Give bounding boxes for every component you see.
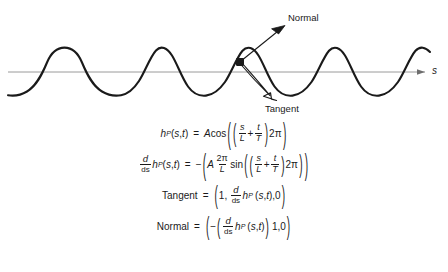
eq3-rhs: (1, d ds hP(s,t),0) <box>213 186 286 206</box>
tangent-label: Tangent <box>265 104 299 114</box>
eq2-outer-rparen: ) <box>305 149 308 181</box>
eq1-outer-lparen: ( <box>227 118 230 150</box>
eq3-lparen: ( <box>214 181 217 209</box>
operator-d-by-ds: d ds <box>140 154 150 174</box>
eq4-lhs: Normal <box>157 221 189 232</box>
normal-vector-arrow <box>241 26 285 62</box>
fraction-twopi-over-L: 2π L <box>215 154 228 174</box>
eq2-rhs: −(A 2π L sin(( s L + t T )2π)) <box>196 155 310 175</box>
normal-vector-line <box>241 30 280 62</box>
equation-derivative: d ds hP(s,t) = −(A 2π L sin(( s L + t T … <box>0 149 448 180</box>
fraction-s-numerator: s <box>239 123 246 133</box>
fraction-t-over-T-2: t T <box>271 154 279 174</box>
symbol-sin: sin <box>230 159 243 170</box>
fraction-L-denominator-2: L <box>219 164 226 175</box>
figure-caption <box>8 259 308 272</box>
fraction-s-over-L: s L <box>239 123 246 143</box>
eq4-outer-lparen: ( <box>206 212 209 240</box>
eq1-lhs: hP(s,t) <box>161 128 189 139</box>
fraction-s-numerator-2: s <box>256 154 263 164</box>
eq4-P: P <box>241 223 246 230</box>
eq2-inner-rparen: ) <box>281 153 284 177</box>
normal-label: Normal <box>288 13 319 23</box>
eq4-inner-rparen: ) <box>266 215 269 239</box>
eq2-plus: + <box>264 159 270 170</box>
eq1-inner-lparen: ( <box>233 119 236 147</box>
eq4-minus: − <box>210 221 216 232</box>
operator-ds-denominator-3: ds <box>223 226 233 236</box>
eq2-A: A <box>207 159 214 170</box>
equation-normal-vector: Normal = (−( d ds hP(s,t))1,0) <box>0 211 448 242</box>
equation-block: hP(s,t) = Acos(( s L + t T )2π) d ds <box>0 118 448 242</box>
eq2-minus: − <box>196 159 202 170</box>
eq1-equals: = <box>193 128 199 139</box>
eq2-sin-rparen: ) <box>299 150 302 178</box>
eq4-arg-rparen: ) <box>261 221 264 232</box>
operator-d-numerator-2: d <box>232 185 239 195</box>
eq2-pi: π <box>221 153 227 163</box>
eq2-sin-lparen: ( <box>244 150 247 178</box>
fraction-L-denominator-3: L <box>255 164 262 175</box>
eq4-h: h <box>235 221 241 232</box>
eq3-h: h <box>243 190 249 201</box>
eq2-h: h <box>152 159 158 170</box>
operator-ds-denominator: ds <box>140 164 150 174</box>
eq3-zero: 0 <box>275 190 281 201</box>
eq2-rparen: ) <box>177 159 180 170</box>
eq3-rparen: ) <box>282 181 285 209</box>
eq4-rhs: (−( d ds hP(s,t))1,0) <box>205 217 291 237</box>
operator-d-by-ds-2: d ds <box>231 185 241 205</box>
eq3-P: P <box>248 192 253 199</box>
wave-diagram: Normal Tangent s <box>0 0 448 120</box>
symbol-cos: cos <box>211 128 227 139</box>
eq1-outer-rparen: ) <box>283 118 286 150</box>
tangent-arrowhead <box>264 93 277 101</box>
s-axis <box>8 69 425 75</box>
wave-diagram-svg <box>0 0 448 120</box>
fraction-T-denominator-2: T <box>271 164 279 175</box>
operator-d-numerator: d <box>142 154 149 164</box>
operator-d-numerator-3: d <box>225 216 232 226</box>
figure-root: Normal Tangent s hP(s,t) = Acos(( s L + … <box>0 0 448 272</box>
fraction-T-denominator: T <box>255 133 263 144</box>
equation-tangent-vector: Tangent = (1, d ds hP(s,t),0) <box>0 180 448 211</box>
eq1-plus: + <box>247 128 253 139</box>
normal-arrowhead <box>272 26 285 34</box>
fraction-t-numerator-2: t <box>273 154 278 164</box>
eq2-outer-lparen: ( <box>203 149 206 181</box>
equation-height-function: hP(s,t) = Acos(( s L + t T )2π) <box>0 118 448 149</box>
operator-ds-denominator-2: ds <box>231 195 241 205</box>
s-axis-arrowhead <box>417 69 425 75</box>
eq3-equals: = <box>203 190 209 201</box>
eq1-rparen: ) <box>185 128 188 139</box>
eq4-inner-lparen: ( <box>217 215 220 239</box>
eq1-rhs: Acos(( s L + t T )2π) <box>204 124 287 144</box>
eq3-lhs: Tangent <box>162 190 198 201</box>
eq4-equals: = <box>194 221 200 232</box>
fraction-s-over-L-2: s L <box>255 154 262 174</box>
symbol-A: A <box>204 128 211 139</box>
eq2-inner-lparen: ( <box>250 153 253 177</box>
eq2-pi-b: π <box>291 159 298 170</box>
symbol-h: h <box>161 128 167 139</box>
eq1-pi: π <box>275 128 282 139</box>
eq2-equals: = <box>185 159 191 170</box>
s-axis-label: s <box>432 66 437 76</box>
eq2-lhs: d ds hP(s,t) <box>139 155 180 175</box>
eq3-comma-1: , <box>224 190 227 201</box>
fraction-twopi-numerator: 2π <box>215 154 228 164</box>
fraction-L-denominator: L <box>239 133 246 144</box>
fraction-t-over-T: t T <box>255 123 263 143</box>
eq1-inner-rparen: ) <box>265 119 268 147</box>
eq4-outer-rparen: ) <box>287 212 290 240</box>
operator-d-by-ds-3: d ds <box>223 216 233 236</box>
fraction-t-numerator: t <box>256 123 261 133</box>
eq4-zero: 0 <box>280 221 286 232</box>
